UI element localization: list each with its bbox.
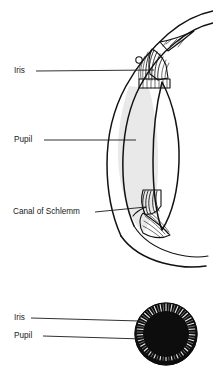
iris-frontal-leader-line [31, 318, 140, 321]
label-iris-sagittal: Iris [14, 66, 25, 75]
limbus-inner-wall [134, 226, 208, 257]
label-pupil-sagittal: Pupil [14, 135, 32, 144]
canal-of-schlemm-upper-marker [136, 57, 142, 63]
iris-leader-line [36, 70, 154, 71]
anterior-eye-cross-section: Iris Pupil Canal of Schlemm [13, 11, 213, 267]
figure-canvas: Iris Pupil Canal of Schlemm [0, 0, 213, 373]
label-pupil-frontal: Pupil [14, 331, 32, 340]
limbus-outer-wall [121, 236, 206, 267]
label-canal-of-schlemm: Canal of Schlemm [13, 207, 80, 216]
iris-frontal-view: Iris Pupil [14, 303, 197, 365]
pupil-frontal-leader-line [43, 336, 143, 339]
eye-anatomy-figure: Iris Pupil Canal of Schlemm [0, 0, 213, 373]
pupil-disc [143, 311, 189, 357]
label-iris-frontal: Iris [14, 313, 25, 322]
